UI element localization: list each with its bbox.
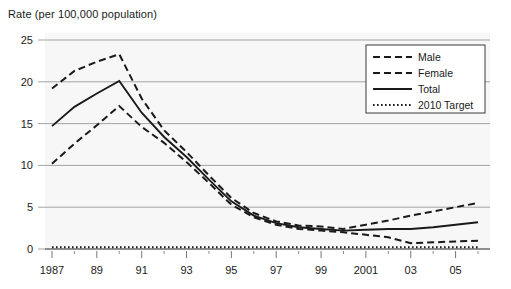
x-tick-label: 95 xyxy=(225,264,237,276)
x-tick-label: 99 xyxy=(315,264,327,276)
legend-label-total: Total xyxy=(418,83,440,95)
x-tick-label: 91 xyxy=(136,264,148,276)
chart-legend: MaleFemaleTotal2010 Target xyxy=(366,45,485,113)
y-tick-label: 25 xyxy=(21,34,33,46)
y-axis-ticks: 0510152025 xyxy=(21,34,33,255)
legend-label-2010-target: 2010 Target xyxy=(418,99,473,111)
chart-container: Rate (per 100,000 population) 0510152025… xyxy=(0,0,511,289)
legend-label-male: Male xyxy=(418,51,441,63)
legend-label-female: Female xyxy=(418,67,453,79)
x-tick-label: 03 xyxy=(405,264,417,276)
x-tick-label: 93 xyxy=(180,264,192,276)
y-tick-label: 10 xyxy=(21,159,33,171)
x-tick-label: 89 xyxy=(91,264,103,276)
x-tick-label: 05 xyxy=(449,264,461,276)
y-tick-label: 0 xyxy=(27,243,33,255)
x-axis-ticks: 198789919395979920010305 xyxy=(40,249,490,276)
y-tick-label: 20 xyxy=(21,76,33,88)
y-tick-label: 15 xyxy=(21,118,33,130)
x-tick-label: 2001 xyxy=(354,264,378,276)
x-tick-label: 97 xyxy=(270,264,282,276)
x-tick-label: 1987 xyxy=(40,264,64,276)
line-chart: 0510152025 198789919395979920010305 Male… xyxy=(0,0,511,289)
y-tick-label: 5 xyxy=(27,201,33,213)
